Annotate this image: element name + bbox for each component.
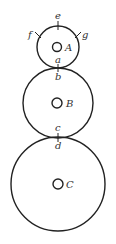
circle-c — [11, 137, 105, 231]
circle-c-center — [53, 179, 63, 189]
circle-a-center — [53, 43, 62, 52]
label-circle-a: A — [64, 42, 72, 53]
circle-b-center — [52, 98, 62, 108]
label-b: b — [55, 71, 61, 82]
label-circle-c: C — [66, 179, 74, 190]
label-c: c — [55, 122, 61, 133]
label-f: f — [27, 29, 34, 40]
label-a: a — [55, 54, 61, 65]
label-g: g — [82, 29, 88, 40]
label-circle-b: B — [65, 98, 73, 109]
label-d: d — [55, 140, 61, 151]
stacked-circles-diagram: e f g a b c d A B C — [0, 0, 116, 244]
label-e: e — [55, 10, 61, 21]
